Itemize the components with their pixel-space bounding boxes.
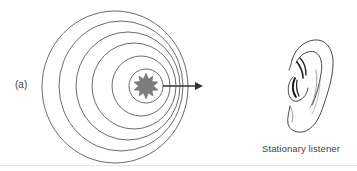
divider — [0, 165, 357, 166]
ear-icon — [288, 40, 333, 132]
panel-label: (a) — [15, 79, 27, 91]
listener-caption: Stationary listener — [262, 143, 340, 155]
doppler-diagram: (a) Stationary listener — [0, 0, 357, 171]
wavefront-circles — [42, 11, 188, 163]
sound-source-star-icon — [134, 73, 158, 99]
